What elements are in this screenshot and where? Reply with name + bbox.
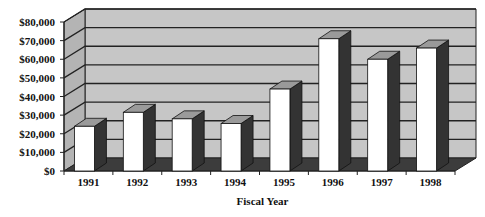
y-tick-label: $10,000 bbox=[19, 146, 55, 158]
x-tick-label: 1995 bbox=[264, 176, 304, 188]
bar-1993 bbox=[172, 119, 192, 171]
bar-side bbox=[192, 111, 204, 171]
bar-side bbox=[388, 51, 400, 171]
bar-1997 bbox=[368, 59, 388, 171]
bar-side bbox=[437, 40, 449, 171]
y-tick-label: $50,000 bbox=[19, 72, 55, 84]
x-tick-label: 1998 bbox=[411, 176, 451, 188]
y-tick-label: $70,000 bbox=[19, 35, 55, 47]
bar-side bbox=[339, 31, 351, 171]
x-tick-label: 1992 bbox=[117, 176, 157, 188]
bar-side bbox=[290, 81, 302, 171]
bar-chart: $0$10,000$20,000$30,000$40,000$50,000$60… bbox=[0, 0, 485, 217]
bar-1992 bbox=[123, 112, 143, 171]
y-tick-label: $20,000 bbox=[19, 128, 55, 140]
x-tick-label: 1993 bbox=[166, 176, 206, 188]
bar-1991 bbox=[74, 126, 94, 171]
bar-side bbox=[241, 116, 253, 171]
bar-1998 bbox=[417, 48, 437, 171]
y-tick-label: $40,000 bbox=[19, 91, 55, 103]
bar-side bbox=[143, 104, 155, 171]
y-tick-label: $80,000 bbox=[19, 16, 55, 28]
x-tick-label: 1996 bbox=[313, 176, 353, 188]
bar-side bbox=[94, 118, 106, 171]
bar-1995 bbox=[270, 89, 290, 171]
y-tick-label: $60,000 bbox=[19, 53, 55, 65]
x-tick-label: 1994 bbox=[215, 176, 255, 188]
bar-1994 bbox=[221, 124, 241, 171]
x-tick-label: 1997 bbox=[362, 176, 402, 188]
x-tick-label: 1991 bbox=[68, 176, 108, 188]
y-tick-label: $30,000 bbox=[19, 109, 55, 121]
y-tick-label: $0 bbox=[44, 165, 55, 177]
bar-1996 bbox=[319, 39, 339, 171]
x-axis-title: Fiscal Year bbox=[0, 195, 485, 207]
